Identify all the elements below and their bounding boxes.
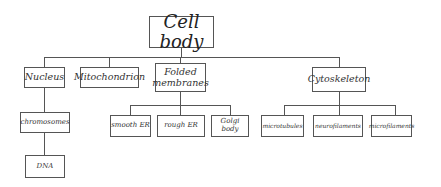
connector-smooth-er	[130, 105, 131, 115]
connector-microfilaments	[395, 105, 396, 115]
connector-nucleus	[44, 57, 45, 67]
node-folded-membranes: Folded membranes	[155, 63, 206, 92]
node-neurofilaments: neurofilaments	[313, 115, 363, 137]
node-cytoskeleton: Cytoskeleton	[312, 67, 366, 92]
connector-nucleus-chromosomes	[44, 88, 45, 112]
connector-chromosomes-dna	[44, 133, 45, 155]
node-dna: DNA	[25, 155, 65, 178]
node-rough-er: rough ER	[157, 115, 205, 137]
node-microfilaments: microfilaments	[371, 115, 412, 137]
connector-mitochondrion	[109, 57, 110, 67]
connector-neurofilaments	[339, 105, 340, 115]
node-golgi-body: Golgi body	[211, 115, 249, 137]
connector-golgi	[230, 105, 231, 115]
connector-level1-bar	[44, 57, 339, 58]
node-nucleus: Nucleus	[24, 67, 65, 88]
connector-folded-down	[180, 92, 181, 105]
node-smooth-er: smooth ER	[110, 115, 151, 137]
cell-body-hierarchy-diagram: Cell body Nucleus Mitochondrion Folded m…	[0, 0, 441, 187]
node-cell-body: Cell body	[149, 16, 214, 48]
connector-cyto-down	[339, 92, 340, 105]
connector-rough-er	[180, 105, 181, 115]
node-microtubules: microtubules	[261, 115, 304, 137]
node-mitochondrion: Mitochondrion	[80, 67, 139, 88]
connector-microtubules	[284, 105, 285, 115]
connector-cytoskeleton	[339, 57, 340, 67]
node-chromosomes: chromosomes	[20, 112, 70, 133]
